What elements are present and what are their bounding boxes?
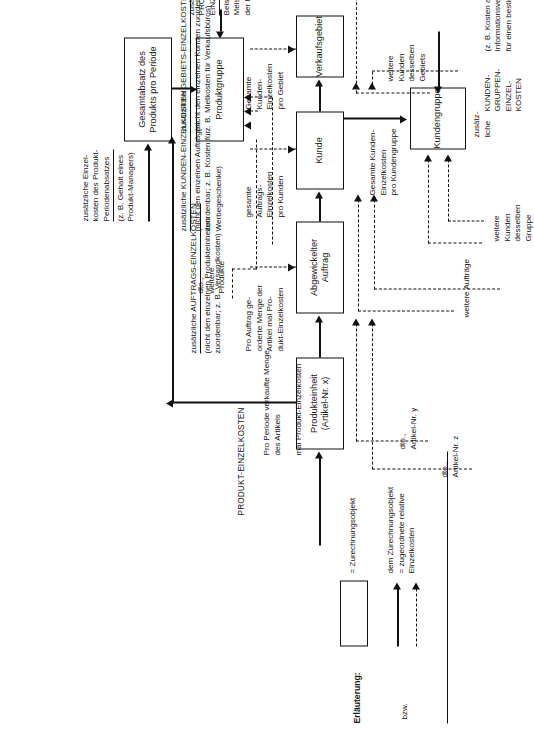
- label-dto-artikel-y: dto., Artikel-Nr. y: [398, 407, 419, 449]
- node-abgewickelter-auftrag[interactable]: Abgewickelter Auftrag: [296, 221, 344, 313]
- dashed-weitere-auftraege-hline-b: [374, 199, 375, 289]
- dashed-weitere-kunden-gruppe-vline-b: [448, 220, 484, 221]
- node-kundengruppe-label: Kundengruppe: [432, 88, 443, 148]
- dashed-artikel-z-hline: [372, 323, 373, 469]
- label-dto-artikel-z: dto., Artikel-Nr. z: [440, 435, 461, 477]
- dashed-weitere-auftraege-arrowhead-a: [354, 194, 362, 201]
- annotation-gebiets-title: zusätzliche GEBIETS-EINZELKOSTEN: [179, 0, 191, 131]
- annotation-kundengruppen-title: KUNDEN- GRUPPEN- EINZEL- KOSTEN: [483, 68, 524, 111]
- dashed-auftrags-kosten-arrowhead: [288, 263, 295, 271]
- legend-box-meaning: = Zurechnungsobjekt: [348, 497, 359, 573]
- legend-box-shape: [340, 580, 368, 646]
- flow-produkt-perioden-line: [148, 147, 150, 221]
- dashed-weitere-kunden-gebiet-arrowhead-b: [368, 82, 376, 89]
- node-produkteinheit-label: Produkteinheit (Artikel-Nr. x): [309, 374, 331, 433]
- dashed-weitere-auftraege-vline-a: [358, 310, 454, 311]
- dashed-weitere-kunden-gruppe-arrowhead-a: [424, 154, 432, 161]
- annotation-gebiets: zusätzliche GEBIETS-EINZELKOSTEN (nicht …: [168, 0, 224, 131]
- annotation-produkt-perioden-title: zusätzliche Einzel- kosten des Produkt- …: [81, 149, 114, 221]
- legend-dashed-arrowhead: [412, 582, 420, 589]
- label-gesamte-kunden-einzelkosten-gebiet: Gesamte Kunden- Einzelkosten pro Gebiet: [244, 63, 286, 109]
- label-gesamte-kunden-einzelkosten-gruppe: Gesamte Kunden- Einzelkosten pro Kundeng…: [368, 128, 400, 195]
- label-pro-auftrag: Pro Auftrag ge- orderte Menge der Artike…: [244, 284, 286, 351]
- flow-kunde-kundengruppe-line: [344, 118, 402, 120]
- flow-entry-line: [319, 457, 321, 545]
- node-kundengruppe[interactable]: Kundengruppe: [410, 87, 466, 149]
- annotation-produkt-perioden: zusätzliche Einzel- kosten des Produkt- …: [70, 43, 147, 221]
- legend-solid-line: [397, 588, 399, 646]
- dashed-weitere-kunden-gruppe-hline-b: [448, 159, 449, 221]
- dashed-weitere-kunden-gruppe-vline-a: [428, 242, 482, 243]
- dashed-kunden-kosten-arrowhead: [288, 145, 295, 153]
- label-pro-periode: Pro Periode verkaufte Menge des Artikels…: [262, 350, 304, 455]
- dashed-weitere-produkte-stub-a: [250, 110, 258, 111]
- flow-produkteinheit-gesamtabsatz-arrowhead: [166, 399, 173, 407]
- dashed-weitere-kunden-gebiet-vline-a: [356, 92, 430, 93]
- legend-dashed-line: [416, 588, 417, 646]
- annotation-gebiets-example: (nicht den einzelnen Kunden zuordenbar; …: [193, 0, 214, 131]
- dashed-artikel-z-arrowhead: [368, 318, 376, 325]
- annotation-kundengruppen-example: (z. B. Kosten anwendungstechnischer Info…: [483, 0, 513, 51]
- node-kunde[interactable]: Kunde: [296, 111, 344, 189]
- flow-kunde-kundengruppe-arrowhead: [400, 115, 407, 123]
- legend-bzw-label: bzw.: [400, 703, 411, 719]
- legend-arrow-meaning: dem Zurechnungsobjekt = zugeordnete rela…: [386, 486, 418, 573]
- dashed-weitere-produkte-vline-a: [232, 268, 256, 269]
- node-verkaufsgebiet[interactable]: Verkaufsgebiet: [296, 15, 344, 77]
- dashed-weitere-kunden-gebiet-arrowhead-a: [352, 82, 360, 89]
- legend-separator: [447, 451, 448, 723]
- label-gesamte-auftrags-einzelkosten: gesamte Auftrags- Einzelkosten pro Kunde…: [244, 171, 286, 217]
- legend-heading-wrap: Erläuterung:: [352, 672, 363, 723]
- dashed-artikel-y-arrowhead: [352, 318, 360, 325]
- flow-kunde-verkaufsgebiet-arrowhead: [315, 79, 323, 86]
- annotation-kundengruppen-example-wrap: (z. B. Kosten anwendungstechnischer Info…: [472, 0, 514, 51]
- dashed-artikel-y-hline: [356, 323, 357, 441]
- annotation-produktgruppen-example: Beispiel: u. U. Meistergehalt in der Fer…: [222, 0, 254, 15]
- annotation-kundengruppen-title-wrap: KUNDEN- GRUPPEN- EINZEL- KOSTEN: [472, 51, 525, 111]
- dashed-weitere-auftraege-hline-a: [358, 199, 359, 311]
- annotation-produkt-perioden-example: (z. B. Gehalt eines Produkt-Managers): [116, 43, 137, 221]
- flow-kundengruppen-kosten-line: [438, 31, 440, 87]
- flow-produkteinheit-auftrag-arrowhead: [315, 315, 323, 322]
- label-weitere-kunden-gebiets: weitere Kunden desselben Gebiets: [386, 44, 428, 81]
- label-produkt-einzelkosten-header: PRODUKT-EINZELKOSTEN: [236, 407, 247, 515]
- node-kunde-label: Kunde: [314, 137, 325, 164]
- flow-kunde-verkaufsgebiet-line: [319, 83, 321, 111]
- flow-kundengruppen-kosten-arrowhead: [434, 86, 442, 93]
- flow-produkteinheit-auftrag-line: [319, 319, 321, 357]
- dashed-weitere-kunden-gruppe-hline-a: [428, 159, 429, 243]
- flow-auftrag-kunde-arrowhead: [315, 191, 323, 198]
- legend-solid-arrowhead: [393, 582, 401, 589]
- dashed-gebiets-kosten-arrowhead: [288, 45, 295, 53]
- label-zusaetzliche-liche: zusätz- liche: [472, 111, 493, 137]
- node-abgewickelter-auftrag-label: Abgewickelter Auftrag: [309, 238, 331, 295]
- flow-auftrag-kunde-line: [319, 195, 321, 221]
- label-weitere-kunden-gruppe: weitere Kunden desselben Gruppe: [492, 204, 534, 241]
- dashed-weitere-kunden-gruppe-arrowhead-b: [444, 154, 452, 161]
- node-verkaufsgebiet-label: Verkaufsgebiet: [314, 16, 325, 77]
- flow-entry-arrowhead: [315, 451, 323, 458]
- dashed-weitere-kunden-gebiet-hline-a: [356, 0, 357, 93]
- dashed-produktgruppe-arrowhead-c: [244, 121, 251, 129]
- dashed-weitere-produkte-hline-c: [272, 97, 273, 244]
- label-weitere-auftraege: weitere Aufträge: [462, 259, 473, 318]
- legend-heading: Erläuterung:: [352, 672, 362, 723]
- dashed-weitere-auftraege-vline-b: [374, 288, 500, 289]
